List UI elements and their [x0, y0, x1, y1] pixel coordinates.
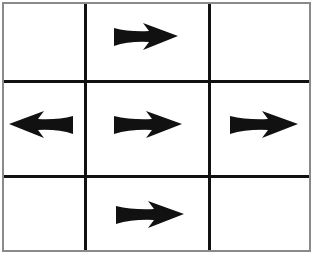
cell-r2-c0 — [4, 178, 84, 250]
arrow-right-icon — [115, 200, 185, 230]
cell-r0-c1 — [87, 4, 208, 80]
cell-r2-c1 — [87, 178, 208, 250]
arrow-right-icon — [229, 110, 299, 140]
cell-r1-c1 — [87, 83, 208, 175]
cell-r1-c2 — [211, 83, 307, 175]
arrow-right-icon — [113, 110, 183, 140]
cell-r0-c0 — [4, 4, 84, 80]
cell-r0-c2 — [211, 4, 307, 80]
cell-r2-c2 — [211, 178, 307, 250]
arrow-right-icon — [113, 22, 179, 52]
cell-r1-c0 — [4, 83, 84, 175]
arrow-left-icon — [8, 110, 74, 140]
